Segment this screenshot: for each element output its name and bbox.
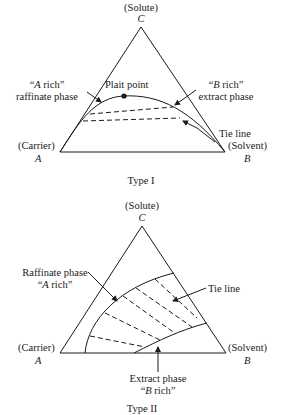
type1-vertex-b: B: [244, 153, 250, 165]
type1-extract-label: “B rich” extract phase: [190, 79, 262, 103]
type2-tie-line-3: [123, 296, 176, 334]
type2-solute-label: (Solute): [116, 200, 168, 212]
type1-tie-line-2: [83, 118, 180, 121]
type1-tie-line-1: [90, 107, 173, 114]
type1-vertex-a: A: [35, 153, 41, 165]
type2-solvent-label: (Solvent): [228, 342, 267, 354]
type2-tie-line-1: [90, 336, 145, 347]
type1-binodal-curve: [60, 96, 225, 152]
type1-raffinate-label: “A rich” raffinate phase: [2, 79, 92, 103]
type2-raffinate-curve: [85, 273, 174, 353]
type1-tie-line-arrow: [183, 121, 215, 142]
type1-caption: Type I: [116, 175, 166, 187]
type2-tie-line-4: [136, 288, 192, 327]
type2-caption: Type II: [117, 403, 167, 415]
type2-raffinate-label: Raffinate phase “A rich”: [14, 267, 96, 291]
type1-solvent-label: (Solvent): [228, 140, 267, 152]
type2-tie-line-5: [155, 279, 197, 318]
type2-diagram: [60, 226, 226, 372]
type2-extract-curve: [134, 323, 207, 353]
type2-vertex-b: B: [244, 355, 250, 367]
type1-tie-line-label: Tie line: [219, 128, 251, 140]
type1-carrier-label: (Carrier): [18, 140, 55, 152]
type2-extract-label: Extract phase “B rich”: [120, 373, 196, 397]
type1-plait-point: [121, 93, 126, 98]
type1-vertex-c: C: [131, 13, 151, 25]
type2-tie-line-arrow: [173, 288, 206, 301]
type2-carrier-label: (Carrier): [18, 342, 55, 354]
type1-plait-point-label: Plait point: [105, 79, 148, 91]
type2-vertex-a: A: [35, 355, 41, 367]
type2-vertex-c: C: [132, 212, 152, 224]
type2-tie-line-label: Tie line: [208, 283, 240, 295]
